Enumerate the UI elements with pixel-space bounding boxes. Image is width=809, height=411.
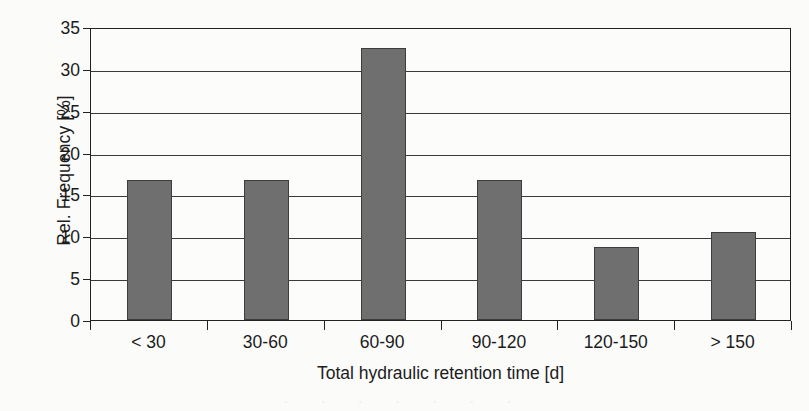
bar [361,48,406,320]
bar [127,180,172,320]
bar [594,247,639,320]
y-tick-label: 5 [42,269,80,290]
x-tick-mark [441,321,442,330]
bar-chart-figure: Rel. Frequency [%] 05101520253035 < 3030… [0,0,809,411]
y-tick-label: 25 [42,101,80,122]
x-tick-mark [207,321,208,330]
x-tick-label: 30-60 [243,332,288,353]
x-tick-label: > 150 [710,332,754,353]
x-tick-mark [674,321,675,330]
x-tick-label: 60-90 [360,332,405,353]
x-tick-mark [90,321,91,330]
x-tick-label: 90-120 [472,332,527,353]
bar [711,232,756,320]
x-tick-label: 120-150 [584,332,648,353]
y-tick-label: 10 [42,227,80,248]
scan-bleed-artifact: · · · · · · · [0,392,809,411]
plot-area [90,28,791,321]
y-tick-mark [83,112,90,113]
bar [477,180,522,320]
y-tick-label: 20 [42,143,80,164]
bar [244,180,289,320]
y-tick-mark [83,154,90,155]
y-tick-mark [83,279,90,280]
y-tick-mark [83,28,90,29]
x-tick-label: < 30 [131,332,166,353]
x-axis-title: Total hydraulic retention time [d] [90,363,791,384]
y-tick-mark [83,70,90,71]
y-tick-label: 30 [42,59,80,80]
x-axis-tick-labels: < 3030-6060-9090-120120-150> 150 [90,332,791,358]
x-tick-mark [557,321,558,330]
y-tick-mark [83,195,90,196]
bar-series [91,29,790,320]
y-tick-label: 15 [42,185,80,206]
x-axis-tick-marks [90,321,791,331]
y-tick-label: 35 [42,18,80,39]
x-tick-mark [791,321,792,330]
y-tick-label: 0 [42,311,80,332]
y-tick-mark [83,321,90,322]
y-axis-tick-labels: 05101520253035 [38,0,80,411]
y-tick-mark [83,237,90,238]
x-tick-mark [324,321,325,330]
